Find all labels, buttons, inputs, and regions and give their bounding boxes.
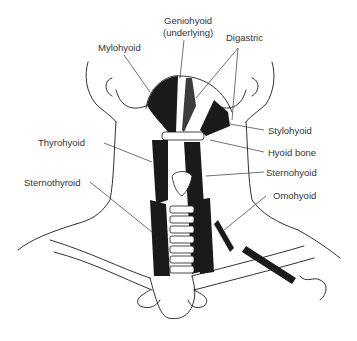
label-geniohyoid: Geniohyoid: [164, 15, 212, 26]
label-geniohyoid-sub: (underlying): [163, 27, 213, 38]
label-hyoid-bone: Hyoid bone: [268, 147, 316, 158]
left-ear: [86, 62, 116, 122]
sternum: [150, 276, 195, 319]
label-digastric: Digastric: [226, 32, 263, 43]
left-clavicle: [50, 240, 150, 278]
label-mylohyoid: Mylohyoid: [98, 42, 141, 53]
thyrohyoid-left: [152, 140, 168, 204]
omohyoid-muscle: [214, 220, 234, 252]
label-stylohyoid: Stylohyoid: [268, 125, 312, 136]
label-sternothyroid: Sternothyroid: [24, 177, 81, 188]
label-thyrohyoid: Thyrohyoid: [38, 137, 85, 148]
mylohyoid-muscle: [147, 76, 178, 132]
jaw-outline: [116, 90, 146, 108]
hyoid-bone: [162, 132, 204, 140]
label-sternohyoid: Sternohyoid: [266, 167, 317, 178]
label-omohyoid: Omohyoid: [273, 190, 316, 201]
geniohyoid-muscle: [182, 78, 196, 132]
digastric-muscle: [200, 100, 230, 136]
sternothyroid-left: [150, 200, 170, 276]
right-ear: [246, 62, 274, 122]
